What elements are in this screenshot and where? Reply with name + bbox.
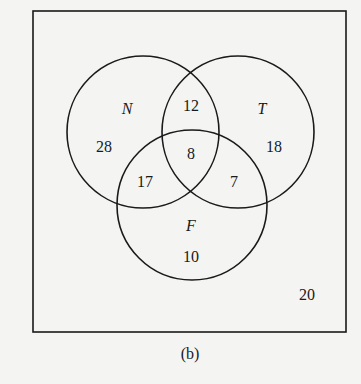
region-f-only: 10: [183, 248, 199, 266]
universe-rectangle: [33, 11, 346, 332]
set-label-t: T: [258, 100, 267, 118]
region-n-t-f: 8: [187, 145, 195, 163]
figure-caption: (b): [181, 345, 200, 363]
venn-diagram: [0, 0, 361, 384]
region-n-and-t: 12: [183, 97, 199, 115]
region-n-and-f: 17: [137, 173, 153, 191]
region-n-only: 28: [96, 138, 112, 156]
region-outside: 20: [299, 286, 315, 304]
set-label-f: F: [186, 217, 196, 235]
region-t-only: 18: [266, 138, 282, 156]
set-label-n: N: [122, 100, 133, 118]
circle-t: [162, 56, 314, 208]
region-t-and-f: 7: [230, 173, 238, 191]
